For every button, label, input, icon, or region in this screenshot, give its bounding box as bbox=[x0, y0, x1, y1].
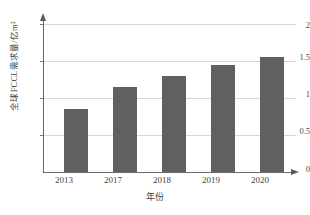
bar-2018 bbox=[162, 76, 186, 172]
bar-2020 bbox=[260, 57, 284, 172]
gridline-1-5 bbox=[44, 61, 296, 62]
bar-2013 bbox=[64, 109, 88, 172]
bar-2019 bbox=[211, 65, 235, 172]
bar-chart: 全球FCCL需求量/亿m² 2 1.5 1 0.5 0 2013 2017 20… bbox=[0, 0, 310, 215]
gridline-2 bbox=[44, 24, 296, 25]
x-tick-label-2020: 2020 bbox=[240, 176, 280, 185]
x-axis-line bbox=[43, 172, 292, 173]
plot-area bbox=[44, 24, 296, 172]
x-tick-label-2018: 2018 bbox=[142, 176, 182, 185]
x-tick-label-2019: 2019 bbox=[191, 176, 231, 185]
y-axis-arrow-icon bbox=[40, 13, 46, 21]
y-axis-title: 全球FCCL需求量/亿m² bbox=[7, 0, 19, 141]
x-tick-label-2013: 2013 bbox=[44, 176, 84, 185]
x-tick-label-2017: 2017 bbox=[93, 176, 133, 185]
x-axis-title: 年份 bbox=[0, 190, 310, 203]
bar-2017 bbox=[113, 87, 137, 172]
